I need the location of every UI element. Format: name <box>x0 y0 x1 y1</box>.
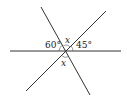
angle-label-45: 45° <box>76 40 92 50</box>
angle-label-x-top: x <box>65 35 70 45</box>
angle-arc-top <box>64 45 71 47</box>
angle-arc-right <box>71 46 73 51</box>
angle-diagram: 60° x 45° x <box>0 0 127 99</box>
angle-label-x-bottom: x <box>61 58 66 68</box>
angle-label-60: 60° <box>45 40 61 50</box>
